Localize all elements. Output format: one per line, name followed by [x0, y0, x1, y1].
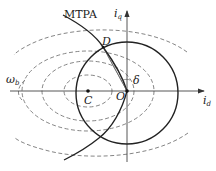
iq-axis-label: iq	[114, 7, 123, 21]
id-axis-label: id	[203, 94, 212, 108]
point-o	[125, 89, 129, 93]
omega-b-label: ωb	[6, 73, 20, 87]
origin-label: O	[116, 90, 125, 103]
diagram-canvas: MTPA D C O δ ωb iq id	[0, 0, 216, 171]
point-c-label: C	[84, 94, 93, 107]
dq-current-diagram: MTPA D C O δ ωb iq id	[0, 0, 216, 171]
point-c	[86, 89, 90, 93]
delta-label: δ	[133, 74, 140, 87]
point-d-label: D	[101, 35, 111, 48]
mtpa-label: MTPA	[64, 8, 98, 21]
